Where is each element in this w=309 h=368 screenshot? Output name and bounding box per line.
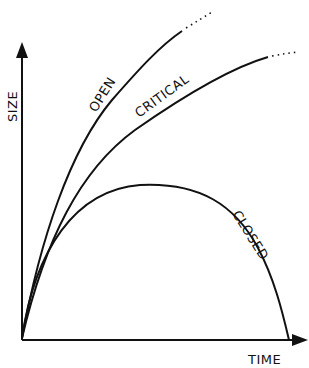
x-axis-label: TIME: [247, 352, 281, 367]
open-label: OPEN: [86, 74, 119, 114]
growth-diagram: SIZE TIME OPEN CRITICAL CLOSED: [0, 0, 309, 368]
closed-label: CLOSED: [229, 208, 271, 263]
critical-curve-extension: [272, 52, 298, 56]
y-axis-label: SIZE: [5, 91, 20, 122]
closed-curve: [22, 185, 289, 340]
critical-label: CRITICAL: [132, 71, 192, 120]
open-curve-extension: [186, 12, 212, 28]
